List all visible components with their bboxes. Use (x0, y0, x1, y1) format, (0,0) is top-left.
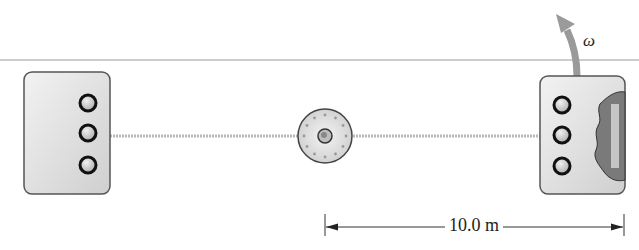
porthole (80, 125, 96, 141)
distance-label: 10.0 m (445, 215, 503, 236)
central-hub (298, 109, 352, 163)
porthole (80, 157, 96, 173)
left-module (24, 72, 110, 194)
right-module (540, 76, 625, 194)
porthole (80, 95, 96, 111)
porthole (554, 127, 570, 143)
rotation-arrow-icon (556, 14, 577, 76)
angular-velocity-label: ω (583, 31, 595, 51)
space-station-diagram (0, 0, 639, 250)
porthole (554, 97, 570, 113)
porthole (554, 158, 570, 174)
